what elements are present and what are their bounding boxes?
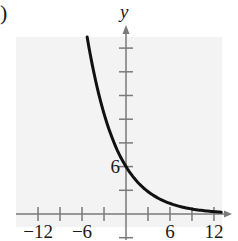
y-tick-label: 6 — [111, 156, 121, 177]
y-axis-arrow-icon — [123, 25, 130, 34]
x-tick-label: 6 — [165, 221, 175, 241]
x-tick-label: 12 — [204, 221, 223, 241]
chart: −12−66126 y — [0, 0, 238, 241]
x-axis-arrow-icon — [224, 211, 232, 218]
y-axis-label: y — [118, 1, 129, 22]
x-tick-label: −6 — [72, 221, 92, 241]
plot-area — [16, 37, 222, 227]
x-tick-label: −12 — [23, 221, 53, 241]
